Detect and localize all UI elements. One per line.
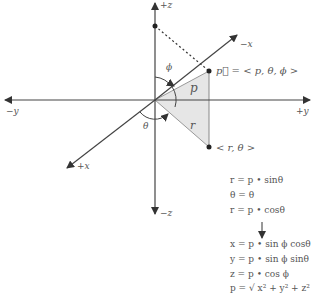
equation-2: θ = θ (230, 191, 254, 200)
r-segment-label: r (190, 120, 195, 131)
equation-7: p = √ x² + y² + z² (230, 284, 310, 293)
point-r (207, 145, 212, 150)
axis-label-neg-y: −y (6, 107, 19, 116)
equation-6: z = p • cos ϕ (230, 270, 289, 279)
z-projection-point (153, 24, 158, 29)
axis-label-neg-z: −z (160, 209, 172, 218)
coordinate-diagram (0, 0, 315, 296)
theta-label: θ (143, 122, 148, 131)
theta-arc (140, 112, 168, 119)
point-p (207, 69, 212, 74)
equation-5: y = p • sin ϕ sinθ (230, 255, 309, 264)
axis-label-pos-z: +z (160, 1, 172, 10)
equation-3: r = p • cosθ (230, 206, 285, 215)
equation-4: x = p • sin ϕ cosθ (230, 240, 311, 249)
equation-1: r = p • sinθ (230, 176, 283, 185)
axis-label-neg-x: −x (240, 40, 253, 49)
point-p-label: p⃗ = < p, θ, ϕ > (216, 66, 298, 76)
axis-label-pos-x: +x (77, 162, 90, 171)
axis-label-pos-y: +y (296, 107, 309, 116)
point-r-label: < r, θ > (216, 143, 255, 153)
phi-label: ϕ (166, 63, 172, 72)
p-segment-label: p (190, 82, 198, 94)
